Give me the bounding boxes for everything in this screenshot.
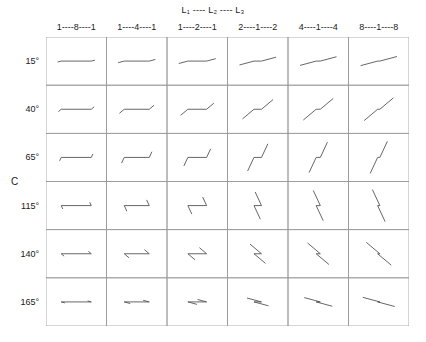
glyph-polyline [300,57,336,66]
glyph-polyline [313,190,323,220]
glyph-polyline [181,103,214,115]
glyph-polyline [254,192,262,219]
glyph-polyline [58,107,94,112]
glyph-polyline [124,200,149,211]
column-header-row: 1----8----1 1----4----1 1----2----1 2---… [46,20,409,34]
series-legend: L₁ ---- L₂ ---- L₃ [0,5,426,15]
glyph-polyline [309,142,327,172]
glyph-polyline [248,144,268,171]
glyph-polyline [308,243,329,264]
row-header: 15° [0,37,44,85]
glyph-polyline [61,251,91,256]
glyph-polyline [124,250,149,258]
glyph-polyline [304,298,332,307]
column-header: 8----1----8 [349,20,410,34]
glyph-polyline [60,154,93,161]
glyph-polyline [363,297,395,306]
glyph-polyline [122,152,152,163]
glyph-polyline [61,202,91,209]
glyph-polyline [58,60,95,62]
row-header: 65° [0,133,44,181]
glyph-polyline [119,105,154,113]
glyph-polyline [124,300,149,303]
glyph-polyline [239,57,276,65]
glyph-polyline [361,57,397,66]
row-header: 40° [0,85,44,133]
glyph-polyline [188,299,207,304]
row-header-column: 15° 40° 65° 115° 140° 165° [0,37,44,326]
glyph-polyline [303,99,333,120]
glyph-polyline [184,149,211,166]
row-header: 115° [0,182,44,230]
row-header: 140° [0,230,44,278]
glyph-polyline [247,298,269,306]
glyph-polyline [364,98,393,121]
glyph-polyline [366,242,391,265]
glyph-grid [46,37,409,326]
column-header: 1----8----1 [46,20,107,34]
glyph-polyline [61,301,91,303]
glyph-polyline [188,197,207,214]
glyph-polyline [242,100,273,119]
glyph-polyline [372,190,385,222]
glyph-matrix-figure: L₁ ---- L₂ ---- L₃ 1----8----1 1----4---… [0,0,426,342]
column-header: 1----4----1 [107,20,168,34]
column-header: 1----2----1 [167,20,228,34]
column-header: 2----1----2 [228,20,289,34]
column-header: 4----1----4 [288,20,349,34]
glyph-polyline [118,59,155,62]
glyph-polyline [250,244,266,263]
glyph-polyline [188,248,207,260]
glyph-polyline [370,141,387,173]
row-header: 165° [0,278,44,326]
glyph-polyline [179,59,216,64]
